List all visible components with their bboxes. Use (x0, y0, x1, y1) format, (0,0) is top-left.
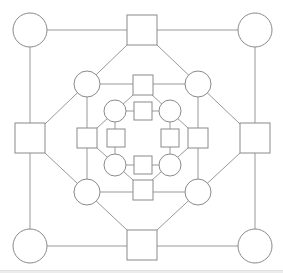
square-node-outer-right (240, 123, 270, 153)
square-node-middle-left (77, 128, 97, 148)
circle-node-inner-top-right (159, 100, 181, 122)
circle-node-outer-bottom-left (13, 229, 47, 263)
circle-node-middle-top-right (185, 71, 211, 97)
circle-node-outer-bottom-right (238, 229, 272, 263)
square-node-outer-bottom (127, 230, 157, 260)
square-node-middle-top (133, 75, 153, 95)
nested-octagon-diagram (0, 0, 283, 270)
square-node-outer-top (127, 15, 157, 45)
edges (30, 30, 255, 246)
circle-node-inner-top-left (104, 100, 126, 122)
square-node-inner-top (134, 102, 152, 120)
circle-node-outer-top-right (238, 13, 272, 47)
circle-node-inner-bottom-left (104, 154, 126, 176)
circle-node-middle-bottom-left (74, 179, 100, 205)
circle-node-middle-top-left (74, 71, 100, 97)
circle-node-middle-bottom-right (185, 179, 211, 205)
square-node-middle-bottom (133, 180, 153, 200)
square-node-inner-right (161, 129, 179, 147)
square-node-inner-left (107, 129, 125, 147)
square-node-outer-left (15, 123, 45, 153)
nodes (13, 13, 272, 263)
circle-node-inner-bottom-right (159, 154, 181, 176)
square-node-inner-bottom (134, 156, 152, 174)
circle-node-outer-top-left (13, 13, 47, 47)
square-node-middle-right (188, 128, 208, 148)
